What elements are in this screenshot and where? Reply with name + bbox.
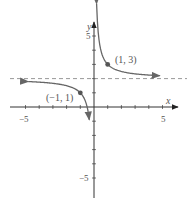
graph-figure: x y −5 5 5 −5 (1, 3) (−1, 1) (0, 0, 187, 205)
point-label-b: (−1, 1) (46, 92, 73, 104)
point-label-a: (1, 3) (115, 54, 137, 66)
x-tick-label-pos5: 5 (161, 114, 166, 124)
plot-area: x y −5 5 5 −5 (1, 3) (−1, 1) (0, 0, 187, 205)
point-marker-b (78, 90, 83, 95)
point-marker-a (105, 62, 110, 67)
y-tick-label-neg5: −5 (79, 173, 89, 183)
x-tick-label-neg5: −5 (19, 114, 29, 124)
y-tick-label-pos5: 5 (86, 31, 91, 41)
x-axis-label: x (165, 95, 171, 106)
